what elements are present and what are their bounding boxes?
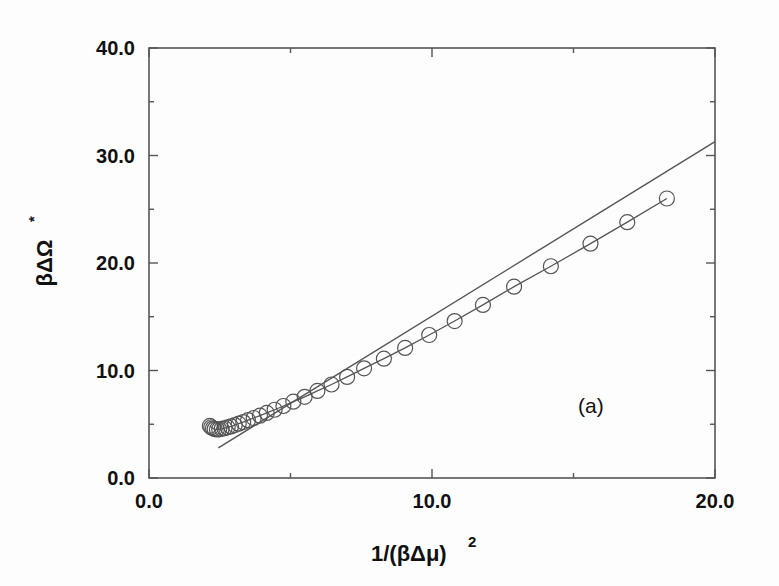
y-tick-label: 30.0 [96, 145, 135, 167]
y-tick-label: 10.0 [96, 360, 135, 382]
x-tick-labels: 0.010.020.0 [135, 490, 734, 512]
panel-label: (a) [578, 394, 604, 417]
x-tick-label: 10.0 [413, 490, 452, 512]
x-tick-label: 20.0 [696, 490, 735, 512]
series-line-asymptotic-line [218, 142, 715, 448]
figure-panel: 0.010.020.0 0.010.020.030.040.0 1/(βΔμ) … [0, 0, 779, 586]
axis-ticks [149, 48, 715, 478]
y-tick-label: 0.0 [107, 467, 135, 489]
y-tick-labels: 0.010.020.030.040.0 [96, 37, 135, 489]
plot-frame [149, 48, 715, 478]
plot-canvas: 0.010.020.0 0.010.020.030.040.0 1/(βΔμ) … [0, 0, 779, 586]
data-series-group [202, 142, 715, 448]
x-axis-title-exponent: 2 [468, 533, 476, 550]
x-axis-title: 1/(βΔμ) 2 [371, 533, 476, 566]
x-axis-title-base: 1/(βΔμ) [371, 541, 447, 566]
y-axis-title-base: βΔΩ [32, 240, 57, 287]
y-tick-label: 20.0 [96, 252, 135, 274]
y-tick-label: 40.0 [96, 37, 135, 59]
y-axis-title-exponent: * [25, 216, 42, 222]
x-tick-label: 0.0 [135, 490, 163, 512]
y-axis-title: βΔΩ * [25, 216, 57, 287]
